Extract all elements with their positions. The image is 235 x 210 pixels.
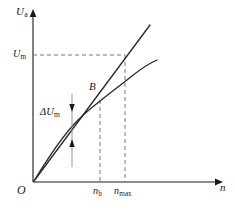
um-tick-label: Um	[13, 49, 26, 61]
voltage-speed-diagram: Ua n Um B nb nmax O ΔUm	[0, 0, 235, 210]
point-b-label: B	[89, 81, 96, 92]
origin-label: O	[17, 184, 26, 196]
delta-um-measure-group	[69, 94, 74, 167]
delta-um-label: ΔUm	[40, 107, 60, 119]
plot-canvas	[0, 0, 235, 210]
delta-um-lower-arrowhead	[69, 139, 74, 147]
saturating-characteristic-curve	[34, 60, 157, 181]
axes-group	[30, 9, 223, 185]
x-axis-label: n	[220, 182, 226, 193]
delta-um-upper-arrowhead	[69, 104, 74, 112]
y-axis-arrowhead	[30, 9, 37, 17]
y-axis-label: Ua	[16, 6, 28, 19]
curves-group	[34, 25, 157, 181]
straight-characteristic-curve	[34, 25, 150, 181]
nb-tick-label: nb	[93, 186, 102, 198]
nmax-tick-label: nmax	[114, 186, 132, 198]
